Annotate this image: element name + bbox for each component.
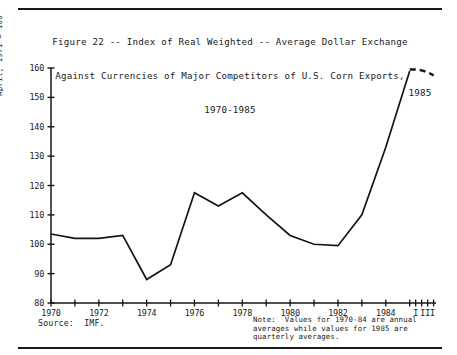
x-tick-label: 1976 — [174, 308, 214, 318]
y-tick-label: 130 — [18, 151, 44, 161]
y-tick-label: 150 — [18, 92, 44, 102]
x-tick-label: 1972 — [79, 308, 119, 318]
x-tick-label: 1980 — [270, 308, 310, 318]
series-line — [410, 69, 434, 75]
source-label: Source: IMF. — [38, 318, 105, 328]
x-tick-label: 1970 — [31, 308, 71, 318]
x-tick-label: 1978 — [222, 308, 262, 318]
y-tick-label: 100 — [18, 239, 44, 249]
figure-note-line-3: quarterly averages. — [253, 332, 339, 341]
figure-note: Note: Values for 1970-84 are annual aver… — [253, 316, 417, 342]
x-tick-label: 1974 — [127, 308, 167, 318]
y-tick-label: 80 — [18, 298, 44, 308]
series-annotation: 1985 — [408, 87, 431, 98]
x-tick-label: 1982 — [318, 308, 358, 318]
y-tick-label: 110 — [18, 210, 44, 220]
x-tick-label: III — [408, 308, 448, 318]
y-tick-label: 160 — [18, 63, 44, 73]
series-line — [51, 71, 410, 280]
plot-area — [51, 68, 436, 303]
figure-page: Figure 22 -- Index of Real Weighted -- A… — [0, 0, 457, 355]
plot-svg — [0, 0, 457, 355]
y-tick-label: 90 — [18, 269, 44, 279]
y-tick-label: 140 — [18, 122, 44, 132]
y-tick-label: 120 — [18, 181, 44, 191]
